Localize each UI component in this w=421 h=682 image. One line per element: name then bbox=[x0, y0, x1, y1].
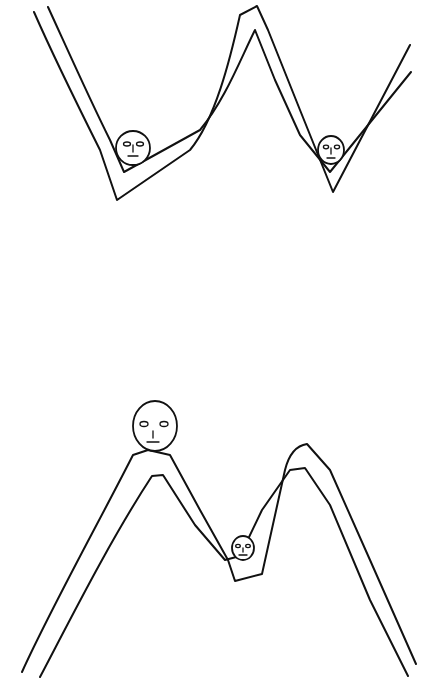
face-head bbox=[133, 401, 177, 451]
face-left-valley bbox=[116, 131, 150, 165]
diagram-canvas bbox=[0, 0, 421, 682]
m-landscape bbox=[22, 401, 416, 677]
m-band-outer-edge bbox=[22, 444, 416, 672]
m-band-inner-edge bbox=[40, 468, 408, 677]
face-left-peak bbox=[133, 401, 177, 451]
face-right-valley bbox=[318, 136, 344, 164]
face-center-valley bbox=[232, 536, 254, 560]
w-landscape bbox=[34, 6, 411, 200]
w-band-outer-edge bbox=[34, 6, 410, 200]
